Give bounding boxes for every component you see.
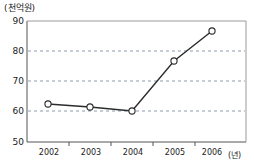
data-point-2003: [87, 104, 93, 110]
x-axis-ticks: [69, 142, 195, 146]
data-point-2006: [209, 28, 215, 34]
line-chart: (천억원) 90 80 70 60 50 2002 2003 2004 2005…: [0, 0, 254, 162]
data-point-2005: [171, 58, 177, 64]
plot-area: [0, 0, 254, 162]
data-point-2004: [129, 108, 135, 114]
gridlines: [28, 51, 245, 111]
data-point-2002: [45, 101, 51, 107]
data-point-markers: [45, 28, 215, 114]
data-series-line: [48, 31, 212, 111]
